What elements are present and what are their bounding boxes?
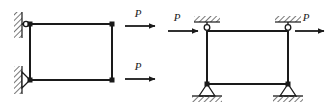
top-left-load-label: P — [173, 11, 181, 23]
ground-hatch — [273, 96, 303, 102]
bottom-left-node — [205, 82, 210, 87]
top-right-node — [110, 22, 115, 27]
lower-wall-hatch — [14, 66, 22, 94]
bottom-right-node — [110, 78, 115, 83]
structural-frame-comparison-diagram: P P — [0, 0, 329, 107]
diagram-canvas: P P — [0, 0, 329, 107]
top-right-load-label: P — [302, 11, 310, 23]
upper-wall-hatch — [14, 12, 22, 38]
hinge-circle — [204, 25, 210, 31]
top-left-ceiling-hatch — [194, 16, 220, 22]
top-right-ceiling-hatch — [275, 16, 301, 22]
top-left-node — [28, 22, 33, 27]
bottom-right-node — [286, 82, 291, 87]
bottom-load-label: P — [134, 60, 142, 72]
bottom-left-node — [28, 78, 33, 83]
ground-hatch — [192, 96, 222, 102]
top-load-label: P — [134, 7, 142, 19]
hinge-circle — [285, 25, 291, 31]
